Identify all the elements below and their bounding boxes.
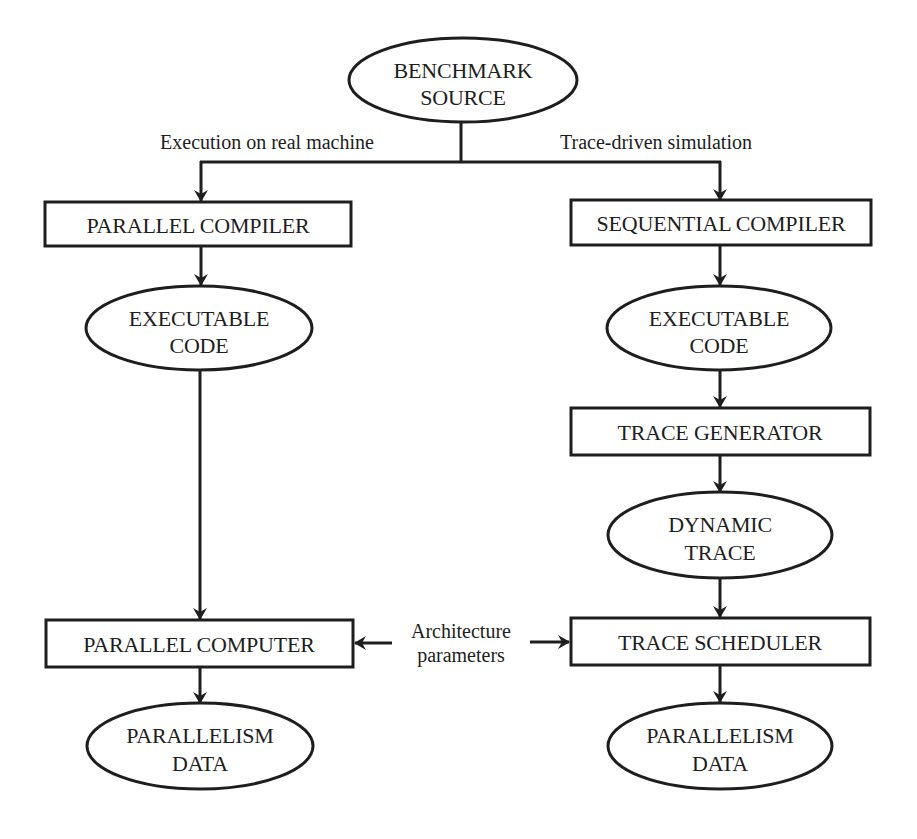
node-label-line1: EXECUTABLE [649, 306, 789, 331]
node-label-line2: CODE [169, 333, 228, 358]
node-label-line1: EXECUTABLE [129, 306, 269, 331]
arch-params-line2: parameters [417, 644, 505, 667]
branch-label-trace-simulation: Trace-driven simulation [560, 131, 752, 153]
node-label-line1: BENCHMARK [394, 58, 533, 83]
node-label-line1: DYNAMIC [668, 512, 772, 537]
node-trace-generator: TRACE GENERATOR [571, 408, 870, 455]
node-label-line1: PARALLELISM [126, 723, 273, 748]
node-executable-code-left: EXECUTABLE CODE [86, 286, 312, 370]
node-benchmark-source: BENCHMARK SOURCE [349, 38, 577, 122]
node-label: TRACE GENERATOR [618, 420, 824, 445]
architecture-parameters-label: Architecture parameters [411, 620, 511, 667]
node-trace-scheduler: TRACE SCHEDULER [571, 618, 870, 665]
node-label: TRACE SCHEDULER [618, 630, 823, 655]
flowchart-diagram: Execution on real machine Trace-driven s… [0, 0, 917, 839]
node-parallelism-data-right: PARALLELISM DATA [608, 703, 832, 789]
node-executable-code-right: EXECUTABLE CODE [607, 286, 831, 370]
node-parallelism-data-left: PARALLELISM DATA [87, 703, 313, 789]
node-parallel-compiler: PARALLEL COMPILER [45, 202, 351, 246]
branch-label-real-machine: Execution on real machine [160, 131, 374, 153]
node-sequential-compiler: SEQUENTIAL COMPILER [571, 200, 871, 245]
node-parallel-computer: PARALLEL COMPUTER [46, 620, 353, 667]
node-label: SEQUENTIAL COMPILER [597, 211, 847, 236]
node-label-line2: TRACE [684, 540, 755, 565]
node-label-line2: SOURCE [420, 85, 506, 110]
arch-params-line1: Architecture [411, 620, 511, 642]
node-label-line2: DATA [172, 751, 228, 776]
node-label: PARALLEL COMPUTER [83, 632, 315, 657]
node-dynamic-trace: DYNAMIC TRACE [608, 492, 832, 578]
node-label: PARALLEL COMPILER [87, 213, 310, 238]
node-label-line2: CODE [689, 333, 748, 358]
node-label-line1: PARALLELISM [646, 723, 793, 748]
node-label-line2: DATA [692, 751, 748, 776]
